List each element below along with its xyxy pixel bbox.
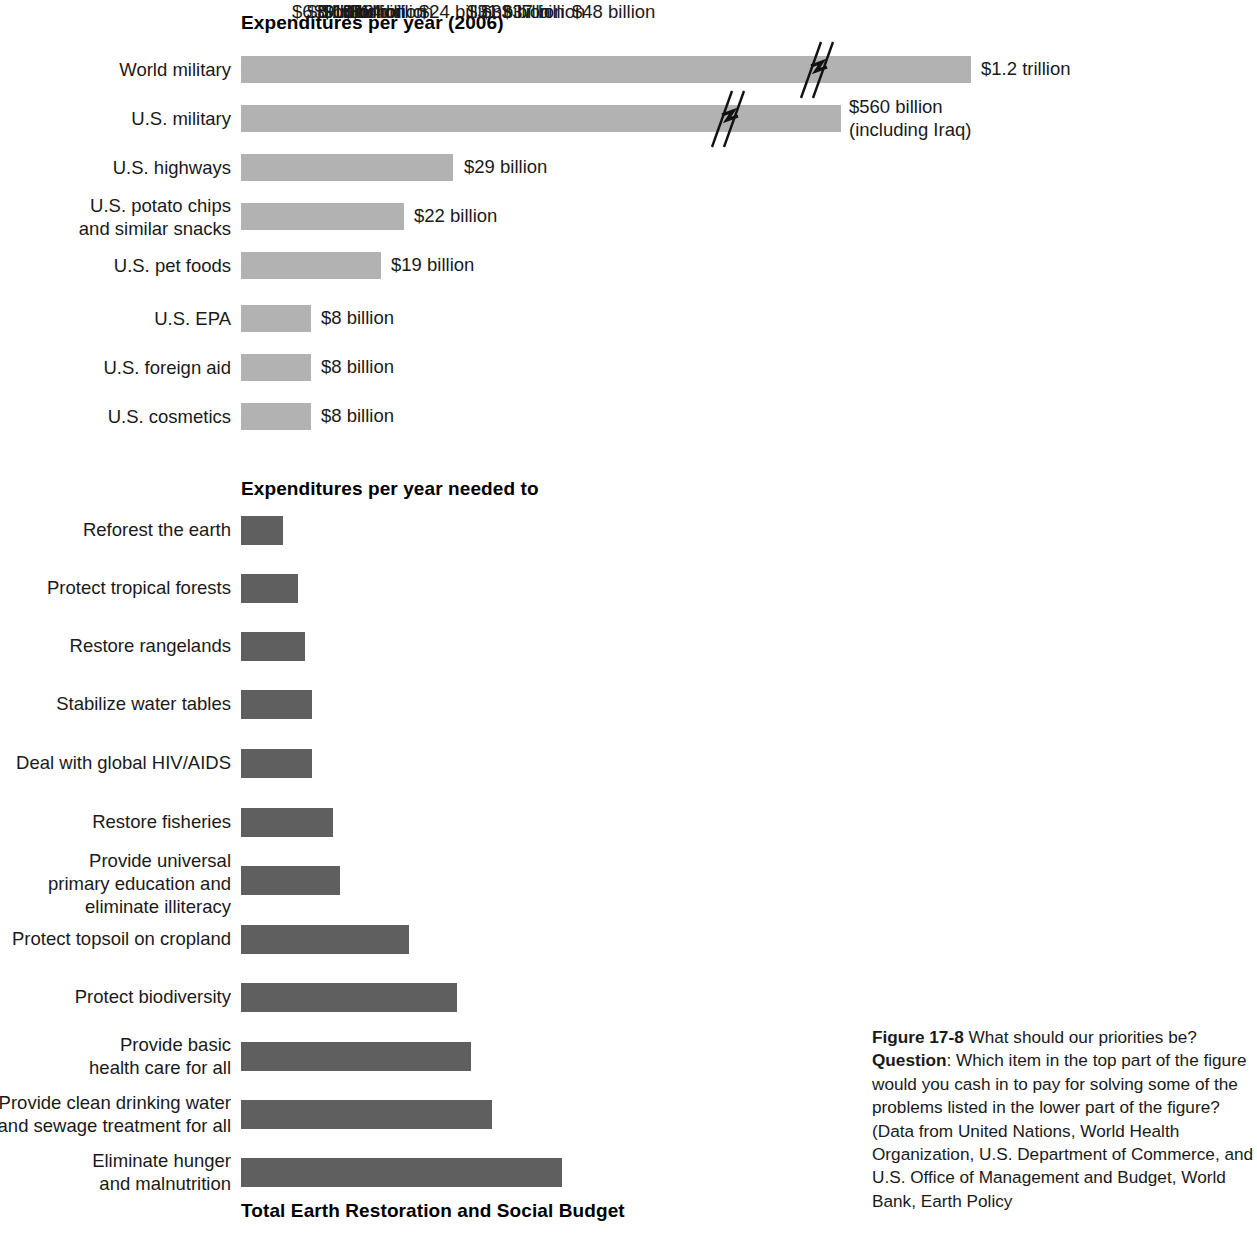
expenditure-value: $1.2 trillion <box>981 57 1070 80</box>
expenditure-value: $8 billion <box>321 306 394 329</box>
needed-bar <box>241 983 457 1012</box>
needed-label: Eliminate hunger and malnutrition <box>0 1149 231 1195</box>
needed-label: Provide clean drinking water and sewage … <box>0 1091 231 1137</box>
needed-bar <box>241 516 283 545</box>
needed-bar <box>241 808 333 837</box>
needed-label: Restore fisheries <box>0 810 231 833</box>
expenditure-value: $560 billion (including Iraq) <box>849 95 971 141</box>
needed-label: Restore rangelands <box>0 634 231 657</box>
expenditure-bar <box>241 105 841 132</box>
expenditure-bar <box>241 56 971 83</box>
expenditure-label: U.S. cosmetics <box>0 405 231 428</box>
expenditure-label: U.S. pet foods <box>0 254 231 277</box>
expenditure-label: U.S. highways <box>0 156 231 179</box>
needed-bar <box>241 632 305 661</box>
expenditure-value: $22 billion <box>414 204 497 227</box>
expenditure-bar <box>241 403 311 430</box>
expenditure-label: World military <box>0 58 231 81</box>
section-heading-total-budget: Total Earth Restoration and Social Budge… <box>241 1200 625 1222</box>
caption-body: : Which item in the top part of the figu… <box>872 1050 1253 1210</box>
needed-bar <box>241 749 312 778</box>
figure-caption: Figure 17-8 What should our priorities b… <box>872 1026 1257 1213</box>
needed-value: $48 billion <box>572 0 655 23</box>
expenditure-value: $19 billion <box>391 253 474 276</box>
expenditure-label: U.S. EPA <box>0 307 231 330</box>
expenditure-bar <box>241 354 311 381</box>
expenditure-bar <box>241 305 311 332</box>
expenditure-bar <box>241 252 381 279</box>
needed-bar <box>241 1100 492 1129</box>
expenditure-label: U.S. potato chips and similar snacks <box>0 194 231 240</box>
needed-bar <box>241 1158 562 1187</box>
expenditure-bar <box>241 154 453 181</box>
expenditure-label: U.S. military <box>0 107 231 130</box>
needed-bar <box>241 690 312 719</box>
expenditure-bar <box>241 203 404 230</box>
expenditure-value: $29 billion <box>464 155 547 178</box>
needed-label: Protect topsoil on cropland <box>0 927 231 950</box>
needed-bar <box>241 866 340 895</box>
needed-label: Protect biodiversity <box>0 985 231 1008</box>
needed-bar <box>241 925 409 954</box>
needed-label: Reforest the earth <box>0 518 231 541</box>
expenditure-value: $8 billion <box>321 404 394 427</box>
caption-question-label: Question <box>872 1050 946 1070</box>
section-heading-expenditures-needed: Expenditures per year needed to <box>241 478 539 500</box>
caption-title: What should our priorities be? <box>964 1027 1197 1047</box>
needed-label: Provide universal primary education and … <box>0 849 231 918</box>
needed-label: Protect tropical forests <box>0 576 231 599</box>
needed-bar <box>241 574 298 603</box>
caption-figure-number: Figure 17-8 <box>872 1027 964 1047</box>
needed-label: Deal with global HIV/AIDS <box>0 751 231 774</box>
needed-label: Stabilize water tables <box>0 692 231 715</box>
expenditure-label: U.S. foreign aid <box>0 356 231 379</box>
expenditure-value: $8 billion <box>321 355 394 378</box>
needed-bar <box>241 1042 471 1071</box>
needed-label: Provide basic health care for all <box>0 1033 231 1079</box>
